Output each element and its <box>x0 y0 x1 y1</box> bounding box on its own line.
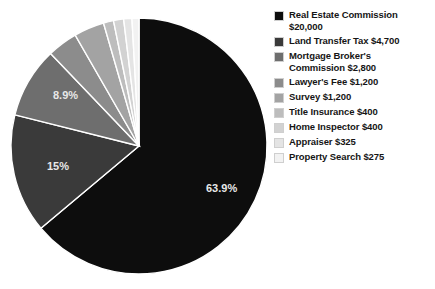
pie-slice-percentage-label: 15% <box>47 160 69 172</box>
legend-item-label: Property Search $275 <box>289 151 384 163</box>
legend-item[interactable]: Home Inspector $400 <box>274 121 435 133</box>
legend-color-swatch-icon <box>274 138 284 148</box>
legend-item[interactable]: Property Search $275 <box>274 151 435 163</box>
legend-item-label: Survey $1,200 <box>289 91 351 103</box>
pie-slice-percentage-label: 63.9% <box>206 182 237 194</box>
pie-chart-svg: 63.9%15%8.9% <box>0 0 272 289</box>
legend-item-label: Title Insurance $400 <box>289 106 378 118</box>
pie-slice-percentage-label: 8.9% <box>53 89 78 101</box>
legend-item-label: Home Inspector $400 <box>289 121 383 133</box>
legend-color-swatch-icon <box>274 153 284 163</box>
legend-item[interactable]: Mortgage Broker'sCommission $2,800 <box>274 50 435 73</box>
legend-item-label-line2: Commission $2,800 <box>289 62 376 73</box>
legend-color-swatch-icon <box>274 11 284 21</box>
legend-item[interactable]: Real Estate Commission$20,000 <box>274 9 435 32</box>
pie-slice-group <box>11 18 267 274</box>
pie-chart-figure: 63.9%15%8.9% Real Estate Commission$20,0… <box>0 0 435 289</box>
pie-chart-plot-area: 63.9%15%8.9% <box>0 0 272 289</box>
legend-color-swatch-icon <box>274 37 284 47</box>
legend-color-swatch-icon <box>274 52 284 62</box>
legend-color-swatch-icon <box>274 78 284 88</box>
legend-item-label: Land Transfer Tax $4,700 <box>289 35 399 47</box>
legend-item[interactable]: Land Transfer Tax $4,700 <box>274 35 435 47</box>
legend-color-swatch-icon <box>274 93 284 103</box>
legend-item-label: Appraiser $325 <box>289 136 356 148</box>
legend-color-swatch-icon <box>274 123 284 133</box>
legend-item-label: Mortgage Broker'sCommission $2,800 <box>289 50 376 73</box>
legend-item[interactable]: Appraiser $325 <box>274 136 435 148</box>
legend-item-label: Lawyer's Fee $1,200 <box>289 76 378 88</box>
legend-item-label: Real Estate Commission$20,000 <box>289 9 398 32</box>
legend-item-label-line2: $20,000 <box>289 21 323 32</box>
legend-item[interactable]: Title Insurance $400 <box>274 106 435 118</box>
legend-item[interactable]: Lawyer's Fee $1,200 <box>274 76 435 88</box>
legend-item[interactable]: Survey $1,200 <box>274 91 435 103</box>
chart-legend: Real Estate Commission$20,000Land Transf… <box>274 9 435 166</box>
legend-color-swatch-icon <box>274 108 284 118</box>
